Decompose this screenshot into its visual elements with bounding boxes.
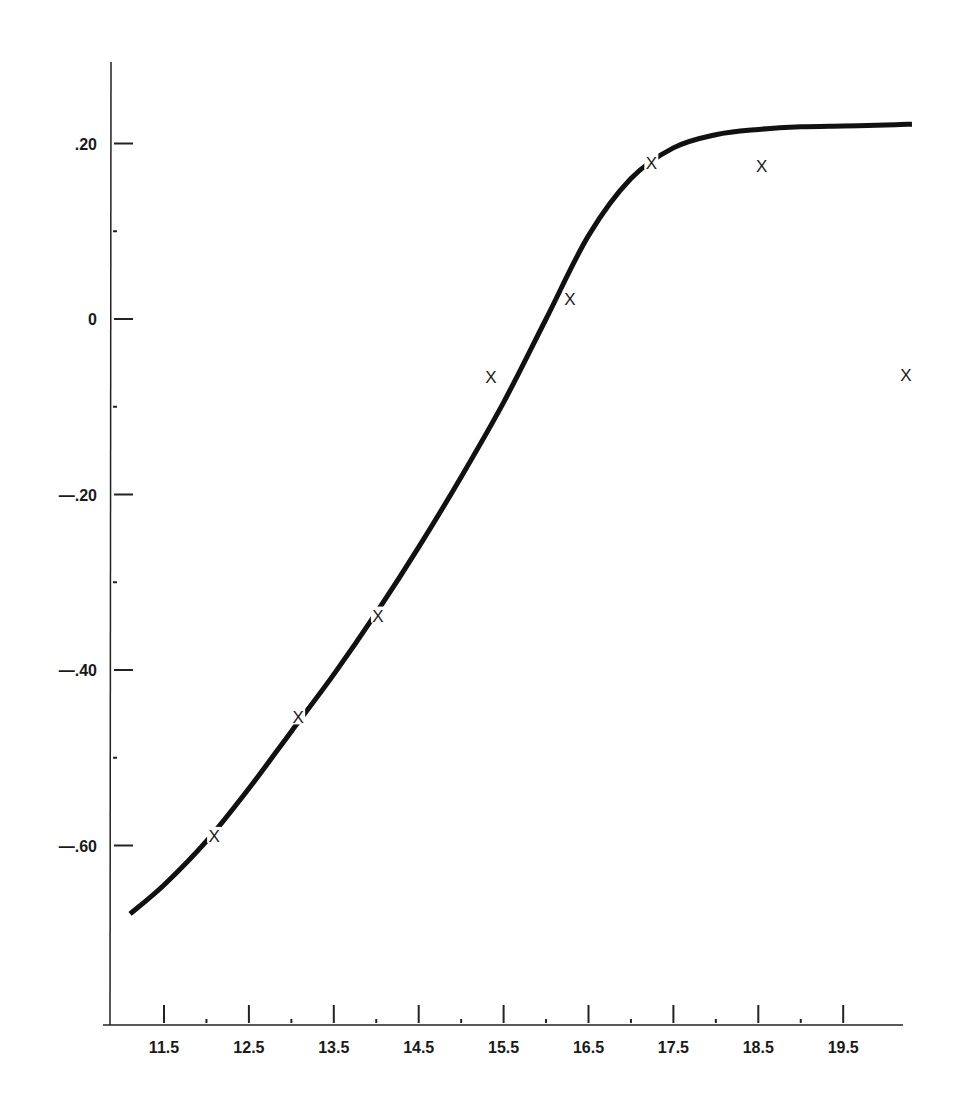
fitted-curve bbox=[130, 124, 912, 914]
x-tick-label: 19.5 bbox=[828, 1039, 859, 1056]
x-tick-label: 18.5 bbox=[743, 1039, 774, 1056]
x-marker-icon: X bbox=[372, 607, 383, 626]
y-tick-label: 0 bbox=[88, 311, 97, 328]
x-tick-label: 14.5 bbox=[403, 1039, 434, 1056]
x-marker-icon: X bbox=[485, 368, 496, 387]
x-marker-icon: X bbox=[292, 708, 303, 727]
x-marker-icon: X bbox=[900, 366, 911, 385]
x-tick-label: 11.5 bbox=[149, 1039, 179, 1056]
y-tick-label: .20 bbox=[75, 136, 97, 153]
y-axis: .200—.20—.40—.60 bbox=[59, 62, 133, 1025]
y-axis-line bbox=[110, 62, 111, 1025]
x-marker-icon: X bbox=[646, 154, 657, 173]
x-tick-label: 15.5 bbox=[488, 1039, 519, 1056]
x-tick-label: 16.5 bbox=[573, 1039, 604, 1056]
x-tick-label: 12.5 bbox=[233, 1039, 264, 1056]
data-points: XXXXXXXX bbox=[207, 154, 913, 846]
x-marker-icon: X bbox=[756, 157, 767, 176]
chart: .200—.20—.40—.60 11.512.513.514.515.516.… bbox=[0, 0, 963, 1111]
x-tick-label: 13.5 bbox=[318, 1039, 349, 1056]
y-tick-label: —.20 bbox=[59, 487, 97, 504]
x-axis: 11.512.513.514.515.516.517.518.519.5 bbox=[103, 1005, 903, 1056]
x-marker-icon: X bbox=[564, 290, 575, 309]
y-tick-label: —.40 bbox=[59, 662, 97, 679]
x-tick-label: 17.5 bbox=[658, 1039, 689, 1056]
curve-path bbox=[130, 124, 912, 914]
y-tick-label: —.60 bbox=[59, 838, 97, 855]
x-marker-icon: X bbox=[208, 827, 219, 846]
